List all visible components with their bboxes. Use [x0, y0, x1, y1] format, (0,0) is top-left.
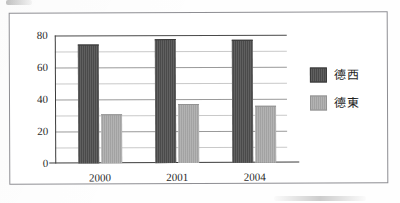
x-tick-label-2001: 2001: [166, 172, 188, 183]
y-tick-label-80: 80: [37, 30, 48, 41]
plot-area: 020406080 200020012004: [55, 35, 287, 164]
bar-2004-series-1: [232, 40, 253, 163]
scan-artifact-bottom-right: [274, 196, 366, 201]
legend-item-west: 德西: [310, 67, 360, 82]
y-tick-label-60: 60: [37, 62, 48, 73]
scanned-page: 020406080 200020012004 德西 德東: [0, 0, 400, 203]
y-tick-label-0: 0: [43, 158, 49, 169]
legend-label-west: 德西: [334, 69, 360, 81]
legend-label-east: 德東: [334, 97, 360, 109]
gridlines: [55, 35, 287, 36]
chart-legend: 德西 德東: [310, 67, 360, 123]
bar-2000-series-2: [101, 114, 122, 163]
y-tick-label-20: 20: [37, 126, 48, 137]
x-tick-label-2004: 2004: [244, 172, 266, 183]
chart-frame: 020406080 200020012004 德西 德東: [9, 11, 389, 184]
bar-2000-series-1: [77, 44, 98, 163]
x-tick-label-2000: 2000: [89, 172, 111, 183]
dark-grey-swatch-icon: [310, 68, 327, 83]
bar-2001-series-1: [155, 39, 176, 163]
y-tick-label-40: 40: [37, 94, 48, 105]
bar-2004-series-2: [255, 106, 276, 163]
bar-2001-series-2: [178, 104, 199, 163]
legend-item-east: 德東: [310, 95, 360, 110]
scan-artifact-top-left: [6, 0, 32, 5]
light-grey-swatch-icon: [310, 96, 327, 111]
